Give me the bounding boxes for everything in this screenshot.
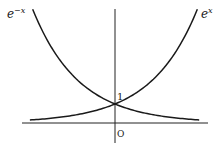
- label-origin: O: [117, 129, 124, 139]
- label-one: 1: [117, 91, 123, 102]
- label-e-x: ex: [201, 6, 213, 21]
- exponential-chart: e−x ex 1 O: [0, 0, 216, 151]
- label-e-neg-x: e−x: [7, 6, 26, 21]
